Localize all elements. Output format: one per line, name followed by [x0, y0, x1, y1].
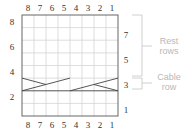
svg-text:1: 1: [124, 105, 129, 115]
svg-text:1: 1: [110, 120, 115, 130]
svg-text:3: 3: [86, 120, 91, 130]
svg-text:7: 7: [124, 30, 129, 40]
svg-text:4: 4: [74, 3, 79, 13]
row-numbers-right: 7 5 3 1: [124, 30, 129, 115]
cable-row-label-1: Cable: [157, 72, 181, 82]
knitting-chart: 8 7 6 5 4 3 2 1 8 7 6 5 4 3 2 1 8 6 4 2 …: [0, 0, 193, 136]
rest-rows-label-1: Rest: [160, 36, 179, 46]
rest-rows-label-2: rows: [159, 46, 179, 56]
svg-text:5: 5: [62, 120, 67, 130]
column-numbers-bottom: 8 7 6 5 4 3 2 1: [26, 120, 115, 130]
svg-text:2: 2: [98, 120, 103, 130]
svg-text:3: 3: [86, 3, 91, 13]
svg-text:5: 5: [62, 3, 67, 13]
svg-text:4: 4: [74, 120, 79, 130]
svg-text:2: 2: [98, 3, 103, 13]
svg-text:2: 2: [10, 92, 15, 102]
row-numbers-left: 8 6 4 2: [10, 17, 15, 102]
svg-text:1: 1: [110, 3, 115, 13]
svg-text:7: 7: [38, 3, 43, 13]
svg-text:6: 6: [10, 42, 15, 52]
svg-text:4: 4: [10, 67, 15, 77]
cable-row-label-2: row: [162, 82, 177, 92]
svg-text:3: 3: [124, 80, 129, 90]
rest-rows-bracket: [132, 15, 152, 76]
svg-text:6: 6: [50, 120, 55, 130]
svg-text:6: 6: [50, 3, 55, 13]
cable-row-bracket: [132, 78, 152, 89]
svg-text:7: 7: [38, 120, 43, 130]
svg-text:8: 8: [26, 3, 31, 13]
grid-lines: [22, 15, 118, 116]
svg-text:8: 8: [26, 120, 31, 130]
svg-text:8: 8: [10, 17, 15, 27]
svg-text:5: 5: [124, 55, 129, 65]
column-numbers-top: 8 7 6 5 4 3 2 1: [26, 3, 115, 13]
